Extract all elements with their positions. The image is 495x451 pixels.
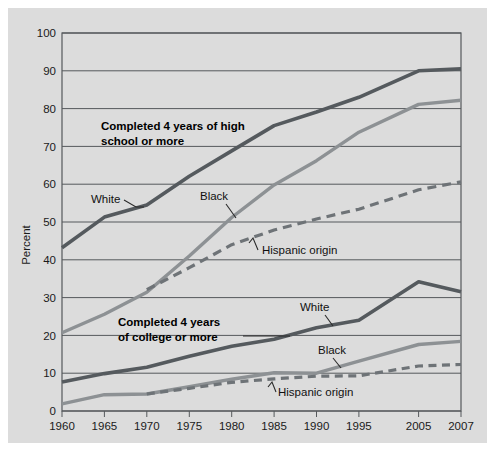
ytick-label-50: 50	[43, 216, 56, 228]
xtick-label-1965: 1965	[92, 420, 118, 432]
series-label-col-black: Black	[318, 344, 346, 356]
annotation-college-line1: Completed 4 years	[118, 316, 220, 328]
xtick-label-1970: 1970	[134, 420, 160, 432]
xtick-label-1960: 1960	[49, 420, 75, 432]
ytick-label-100: 100	[37, 27, 56, 39]
ytick-label-80: 80	[43, 103, 56, 115]
ytick-label-0: 0	[50, 405, 56, 417]
xtick-label-1975: 1975	[177, 420, 203, 432]
xtick-label-2005: 2005	[406, 420, 432, 432]
ytick-label-60: 60	[43, 178, 56, 190]
xtick-label-1985: 1985	[261, 420, 287, 432]
xtick-label-1990: 1990	[304, 420, 330, 432]
ytick-label-20: 20	[43, 330, 56, 342]
annotation-highschool-line1: Completed 4 years of high	[101, 120, 245, 132]
annotation-college-line2: of college or more	[118, 331, 218, 343]
xtick-label-1980: 1980	[219, 420, 245, 432]
x-axis-tick-labels: 1960 1965 1970 1975 1980 1985 1990 1995 …	[49, 420, 474, 432]
series-label-hs-white: White	[91, 193, 120, 205]
xtick-label-2007: 2007	[448, 420, 474, 432]
ytick-label-30: 30	[43, 292, 56, 304]
y-axis-tick-labels: 0 10 20 30 40 50 60 70 80 90 100	[37, 27, 56, 417]
chart-figure: 0 10 20 30 40 50 60 70 80 90 100 1960 19…	[0, 0, 495, 451]
ytick-label-40: 40	[43, 254, 56, 266]
ytick-label-10: 10	[43, 367, 56, 379]
y-axis-title: Percent	[20, 224, 32, 264]
series-label-col-white: White	[300, 301, 329, 313]
ytick-label-70: 70	[43, 141, 56, 153]
series-label-hs-hispanic: Hispanic origin	[262, 244, 337, 256]
education-attainment-line-chart: 0 10 20 30 40 50 60 70 80 90 100 1960 19…	[0, 0, 495, 451]
series-label-hs-black: Black	[200, 190, 228, 202]
series-label-col-hispanic: Hispanic origin	[278, 386, 353, 398]
ytick-label-90: 90	[43, 65, 56, 77]
x-tickmarks	[62, 411, 461, 417]
xtick-label-1995: 1995	[346, 420, 372, 432]
annotation-highschool-line2: school or more	[101, 135, 184, 147]
